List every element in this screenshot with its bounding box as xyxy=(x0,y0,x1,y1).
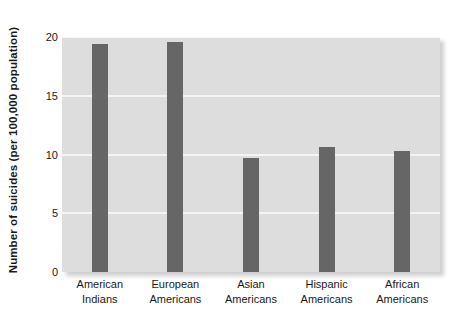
bar[interactable] xyxy=(167,42,183,272)
bar-slot xyxy=(62,37,138,272)
x-tick-label: AsianAmericans xyxy=(213,277,289,307)
bar-chart-figure: Number of suicides (per 100,000 populati… xyxy=(0,0,468,322)
bar[interactable] xyxy=(319,147,335,272)
bar-slot xyxy=(213,37,289,272)
y-axis-tick-labels: 05101520 xyxy=(12,0,58,322)
y-tick-label: 5 xyxy=(16,207,58,219)
x-tick-label-line: American xyxy=(62,277,138,292)
bar-slot xyxy=(364,37,440,272)
bar-slot xyxy=(289,37,365,272)
bar-series xyxy=(62,37,440,272)
x-tick-label: HispanicAmericans xyxy=(289,277,365,307)
x-tick-label-line: Asian xyxy=(213,277,289,292)
bar[interactable] xyxy=(92,44,108,272)
x-axis-tick-labels: AmericanIndiansEuropeanAmericansAsianAme… xyxy=(62,277,440,307)
x-tick-label-line: Americans xyxy=(138,292,214,307)
plot-area xyxy=(62,37,440,272)
x-tick-label-line: Americans xyxy=(289,292,365,307)
x-tick-label-line: Hispanic xyxy=(289,277,365,292)
x-tick-label: EuropeanAmericans xyxy=(138,277,214,307)
x-tick-label-line: African xyxy=(364,277,440,292)
y-tick-label: 0 xyxy=(16,266,58,278)
bar-slot xyxy=(138,37,214,272)
x-tick-label-line: Americans xyxy=(213,292,289,307)
y-tick-label: 10 xyxy=(16,149,58,161)
x-tick-label: AfricanAmericans xyxy=(364,277,440,307)
bar[interactable] xyxy=(394,151,410,272)
x-tick-label-line: European xyxy=(138,277,214,292)
bar[interactable] xyxy=(243,158,259,272)
x-tick-label-line: Indians xyxy=(62,292,138,307)
y-tick-label: 15 xyxy=(16,90,58,102)
x-tick-label-line: Americans xyxy=(364,292,440,307)
x-tick-label: AmericanIndians xyxy=(62,277,138,307)
y-tick-label: 20 xyxy=(16,31,58,43)
